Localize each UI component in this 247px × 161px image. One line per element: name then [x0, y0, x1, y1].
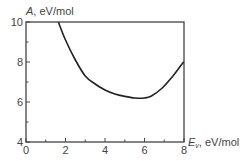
plot-frame	[26, 22, 184, 142]
x-tick-label: 2	[62, 144, 68, 156]
data-series	[58, 22, 184, 98]
y-tick-label: 10	[11, 16, 23, 28]
y-axis-label: A, eV/mol	[25, 5, 74, 17]
x-axis-label-unit: , eV/mol	[199, 136, 239, 148]
x-axis-label: Ev, eV/mol	[188, 136, 239, 149]
y-tick-label: 6	[17, 96, 23, 108]
curve-line	[58, 22, 184, 98]
plot-border	[26, 22, 184, 142]
x-tick-label: 4	[102, 144, 108, 156]
y-axis-label-unit: , eV/mol	[33, 5, 73, 17]
y-axis-label-symbol: A	[25, 5, 33, 17]
x-tick-label: 6	[141, 144, 147, 156]
axis-ticks	[26, 22, 184, 142]
line-chart: 0246846810 A, eV/mol Ev, eV/mol	[0, 0, 247, 161]
chart: 0246846810 A, eV/mol Ev, eV/mol	[0, 0, 247, 161]
y-tick-label: 8	[17, 56, 23, 68]
y-tick-label: 4	[17, 136, 23, 148]
x-tick-label: 0	[23, 144, 29, 156]
x-tick-label: 8	[181, 144, 187, 156]
